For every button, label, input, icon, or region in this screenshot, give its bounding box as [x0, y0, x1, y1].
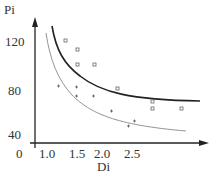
- x-axis-label: Di: [97, 159, 110, 174]
- y-tick-40: 40: [8, 127, 21, 142]
- y-axis-label: Pi: [4, 2, 15, 17]
- x-tick-1.0: 1.0: [39, 146, 55, 161]
- x-tick-2.0: 2.0: [94, 146, 110, 161]
- chart: Pi Di 120 80 40 0 1.0 1.5 2.0 2.5: [0, 0, 211, 175]
- origin-label: 0: [16, 146, 23, 161]
- x-tick-1.5: 1.5: [69, 146, 85, 161]
- lower-curve: [46, 33, 186, 131]
- y-axis-arrow-icon: [32, 17, 38, 27]
- y-tick-120: 120: [5, 34, 25, 49]
- upper-curve: [52, 26, 200, 101]
- y-tick-80: 80: [8, 83, 21, 98]
- x-tick-2.5: 2.5: [124, 146, 140, 161]
- x-axis-arrow-icon: [199, 140, 209, 146]
